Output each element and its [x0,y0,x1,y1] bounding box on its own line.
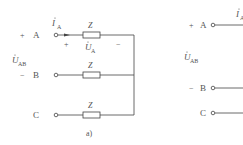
label-terminal-a: A [33,30,40,40]
terminal-a-node [54,33,58,37]
svg-text:AB: AB [18,61,26,67]
svg-text:A: A [240,15,243,21]
voltage-label-uab: U AB [12,54,26,67]
terminal-a-node [211,23,215,27]
phasor-dot-icon [238,8,239,9]
sign-plus-a: + [20,31,25,40]
voltage-a-plus: + [64,40,69,49]
figure-b [211,23,243,115]
label-terminal-c-b: C [200,108,206,118]
voltage-label-uab-b: U AB [184,51,198,64]
figure-caption-a: a) [86,129,93,138]
phasor-dot-icon [14,54,15,55]
svg-text:I: I [51,18,56,28]
label-terminal-b-b: B [200,83,206,93]
label-impedance-c: Z [88,101,93,110]
current-label-ia-b: I A [235,8,243,21]
label-terminal-a-b: A [200,20,207,30]
label-terminal-b: B [33,70,39,80]
phasor-dot-icon [186,51,187,52]
label-impedance-a: Z [88,21,93,30]
voltage-a-minus: − [116,40,121,49]
terminal-b-node [211,86,215,90]
phasor-dot-icon [87,41,88,42]
svg-text:A: A [91,48,96,54]
svg-text:A: A [57,24,62,30]
voltage-label-ua: U A [85,41,96,54]
terminal-c-node [54,113,58,117]
phasor-dot-icon [54,17,55,18]
impedance-a [83,32,100,38]
three-phase-circuit-diagram: + A − B C Z Z Z I A + − U A U AB a) + A … [0,0,243,145]
sign-minus-b-b: − [189,84,194,93]
impedance-c [83,112,100,118]
svg-text:AB: AB [190,58,198,64]
current-label-ia: I A [51,17,62,30]
impedance-b [83,72,100,78]
label-terminal-c: C [33,110,39,120]
label-impedance-b: Z [88,61,93,70]
current-arrow-icon [64,34,70,37]
terminal-c-node [211,111,215,115]
terminal-b-node [54,73,58,77]
sign-plus-a-b: + [189,21,194,30]
sign-minus-b: − [20,71,25,80]
